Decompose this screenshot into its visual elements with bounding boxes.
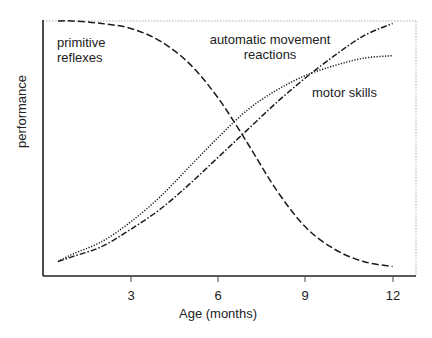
x-tick-label: 6	[214, 288, 221, 303]
y-axis-title: performance	[14, 75, 29, 148]
label-line: reactions	[205, 47, 335, 62]
label-line: reflexes	[57, 50, 105, 65]
x-axis-title: Age (months)	[179, 306, 257, 321]
primitive-reflexes-label: primitive reflexes	[57, 35, 105, 65]
x-ticks	[131, 276, 393, 282]
x-tick-label: 12	[386, 288, 400, 303]
x-tick-label: 3	[127, 288, 134, 303]
motor-skills-label: motor skills	[312, 85, 377, 100]
x-tick-label: 9	[301, 288, 308, 303]
automatic-movement-label: automatic movement reactions	[205, 32, 335, 62]
label-line: primitive	[57, 35, 105, 50]
label-line: automatic movement	[205, 32, 335, 47]
